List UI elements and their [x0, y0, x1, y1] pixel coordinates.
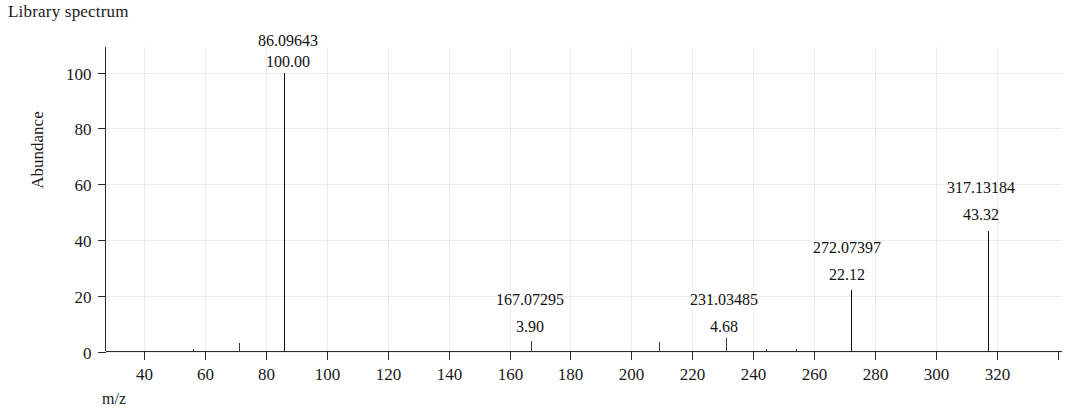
y-tick-label: 100 — [66, 65, 92, 84]
x-tick-label: 320 — [985, 365, 1011, 384]
spectrum-peaks — [194, 73, 989, 352]
y-tick-label: 20 — [75, 288, 92, 307]
x-tick-label: 300 — [924, 365, 950, 384]
y-tick-label: 60 — [75, 176, 92, 195]
peak-label-abundance: 4.68 — [710, 318, 738, 335]
spectrum-figure: Library spectrum Abundance m/z 020406080… — [0, 0, 1065, 418]
peak-labels: 86.09643 100.00 167.07295 3.90 231.03485… — [258, 32, 1015, 335]
x-axis-ticks: 4060801001201401601802002202402602803003… — [136, 352, 1059, 384]
x-tick-label: 200 — [619, 365, 645, 384]
x-tick-label: 280 — [863, 365, 889, 384]
gridlines — [106, 47, 1063, 353]
y-tick-label: 80 — [75, 120, 92, 139]
x-tick-label: 180 — [558, 365, 584, 384]
y-axis-ticks: 020406080100 — [66, 65, 106, 363]
x-tick-label: 160 — [498, 365, 524, 384]
y-tick-label: 40 — [75, 232, 92, 251]
peak-label-mz: 167.07295 — [496, 291, 564, 308]
peak-label-abundance: 3.90 — [516, 318, 544, 335]
peak-label-mz: 272.07397 — [813, 239, 881, 256]
x-tick-label: 100 — [315, 365, 341, 384]
x-tick-label: 220 — [680, 365, 706, 384]
peak-label-abundance: 100.00 — [266, 53, 310, 70]
peak-label-abundance: 22.12 — [829, 266, 865, 283]
peak-label-mz: 86.09643 — [258, 32, 318, 49]
y-tick-label: 0 — [83, 344, 92, 363]
peak-label-abundance: 43.32 — [963, 206, 999, 223]
x-tick-label: 60 — [197, 365, 214, 384]
x-tick-label: 240 — [741, 365, 767, 384]
x-tick-label: 120 — [376, 365, 402, 384]
peak-label-mz: 231.03485 — [690, 291, 758, 308]
x-tick-label: 80 — [258, 365, 275, 384]
peak-label-mz: 317.13184 — [947, 179, 1015, 196]
x-tick-label: 40 — [136, 365, 153, 384]
x-tick-label: 260 — [802, 365, 828, 384]
plot-area: 020406080100 406080100120140160180200220… — [0, 0, 1065, 418]
x-tick-label: 140 — [437, 365, 463, 384]
